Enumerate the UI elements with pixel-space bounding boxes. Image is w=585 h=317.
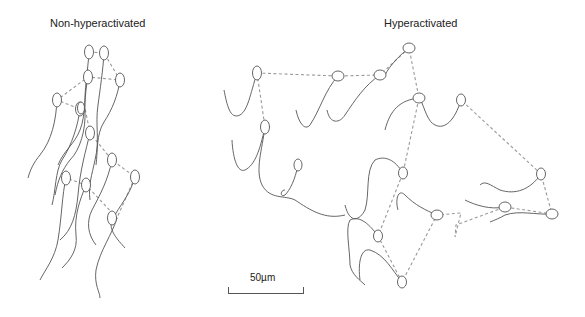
scale-bar — [228, 287, 304, 294]
scale-bar-label: 50µm — [250, 272, 275, 283]
non-hyperactivated-group — [28, 45, 140, 298]
sperm-track-diagram — [0, 0, 585, 317]
hyperactivated-group — [224, 43, 558, 288]
